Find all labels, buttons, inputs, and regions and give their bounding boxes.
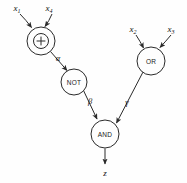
gate-or-label: OR xyxy=(146,58,156,65)
svg-text:x2: x2 xyxy=(129,24,137,35)
edge-x2-to-or xyxy=(136,35,144,48)
gate-or[interactable]: OR xyxy=(137,47,165,75)
input-label-x4: x4 xyxy=(45,3,53,14)
input-label-x2: x2 xyxy=(129,24,137,35)
circuit-diagram-svg: NOT OR AND x1 x4 x2 xyxy=(0,0,187,183)
circuit-diagram-canvas: NOT OR AND x1 x4 x2 xyxy=(0,0,187,183)
edge-label-beta: β xyxy=(87,96,93,106)
svg-text:x4: x4 xyxy=(45,3,53,14)
gate-and-label: AND xyxy=(98,131,112,138)
edge-x3-to-or xyxy=(160,35,171,48)
gate-not-label: NOT xyxy=(67,79,81,86)
edge-label-alpha: α xyxy=(56,53,61,63)
input-label-x3: x3 xyxy=(167,24,175,35)
output-label-z: z xyxy=(102,168,107,178)
gate-not[interactable]: NOT xyxy=(61,69,87,95)
gate-and[interactable]: AND xyxy=(91,120,119,148)
gate-xor[interactable] xyxy=(27,27,55,55)
edge-or-to-and xyxy=(117,72,144,123)
edge-x1-to-xor xyxy=(20,14,32,28)
svg-text:x1: x1 xyxy=(13,3,21,14)
input-label-x1: x1 xyxy=(13,3,21,14)
input-x3-subscript: 3 xyxy=(171,29,175,35)
edge-x4-to-xor xyxy=(45,14,52,27)
input-x4-subscript: 4 xyxy=(50,8,53,14)
input-x2-subscript: 2 xyxy=(134,29,137,35)
input-x1-subscript: 1 xyxy=(18,8,21,14)
svg-text:x3: x3 xyxy=(167,24,175,35)
